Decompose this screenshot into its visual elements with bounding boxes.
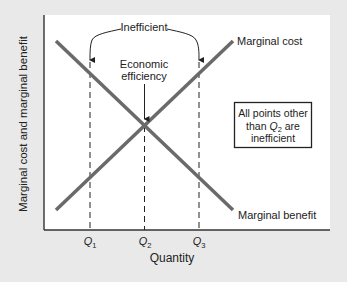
tick-q1: Q1 xyxy=(84,235,97,250)
tick-q3: Q3 xyxy=(193,235,206,250)
y-axis-label: Marginal cost and marginal benefit xyxy=(17,35,29,212)
marginal-benefit-label: Marginal benefit xyxy=(238,209,316,221)
economic-label: Economic xyxy=(120,58,169,70)
inefficient-label: Inefficient xyxy=(121,21,168,33)
x-axis-label: Quantity xyxy=(150,251,195,265)
diagram: Inefficient Economic efficiency Marginal… xyxy=(0,0,347,282)
note-line-1: All points other xyxy=(238,107,308,119)
note-line-3: inefficient xyxy=(251,132,295,144)
marginal-cost-label: Marginal cost xyxy=(237,35,302,47)
tick-q2: Q2 xyxy=(139,235,152,250)
efficiency-label: efficiency xyxy=(121,70,167,82)
